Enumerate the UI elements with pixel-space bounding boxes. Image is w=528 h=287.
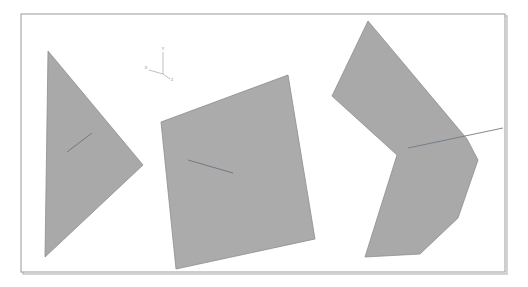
scene-canvas[interactable]: Y X Z xyxy=(0,0,528,287)
axis-x-label: X xyxy=(145,65,148,70)
cad-viewport[interactable]: Y X Z xyxy=(0,0,528,287)
axis-z-label: Z xyxy=(171,77,174,82)
axis-y-label: Y xyxy=(162,46,165,51)
